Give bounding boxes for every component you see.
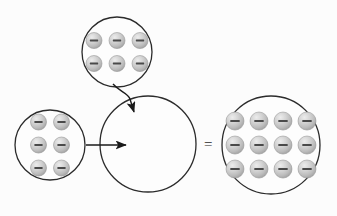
electron-particle xyxy=(54,137,70,154)
groups-layer xyxy=(15,17,320,194)
electron-particle xyxy=(274,136,292,155)
electron-particle xyxy=(298,160,316,179)
electron-particle xyxy=(132,56,148,73)
electron-particle xyxy=(226,112,244,131)
electron-particle xyxy=(54,160,70,177)
electron-particle xyxy=(86,33,102,50)
particle-combination-diagram xyxy=(0,0,337,216)
equals-sign: = xyxy=(204,137,212,152)
electron-particle xyxy=(31,137,47,154)
electron-particle xyxy=(298,112,316,131)
electron-particle xyxy=(31,114,47,131)
electron-particle xyxy=(226,136,244,155)
electron-particle xyxy=(250,112,268,131)
left-particle-group[interactable] xyxy=(15,110,85,180)
electron-particle xyxy=(250,160,268,179)
diagram-canvas: = xyxy=(0,0,337,216)
electron-particle xyxy=(298,136,316,155)
result-particle-group[interactable] xyxy=(100,96,196,192)
electron-particle xyxy=(109,56,125,73)
electron-particle xyxy=(226,160,244,179)
electron-particle xyxy=(132,33,148,50)
electron-particle xyxy=(109,33,125,50)
electron-particle xyxy=(274,112,292,131)
electron-particle xyxy=(54,114,70,131)
electron-particle xyxy=(86,56,102,73)
electron-particle xyxy=(274,160,292,179)
electron-particle xyxy=(250,136,268,155)
top-particle-group[interactable] xyxy=(82,17,152,87)
sum-particle-group[interactable] xyxy=(222,96,320,194)
electron-particle xyxy=(31,160,47,177)
